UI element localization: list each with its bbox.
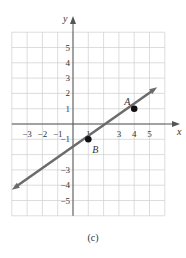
y-tick-label: 1 bbox=[66, 104, 71, 114]
x-tick-label: 5 bbox=[147, 129, 152, 139]
point-a bbox=[131, 105, 138, 112]
point-a-label: A bbox=[123, 96, 131, 107]
x-axis-label: x bbox=[176, 126, 182, 137]
y-tick-label: −3 bbox=[60, 165, 70, 175]
point-b bbox=[85, 136, 92, 143]
y-tick-label: −1 bbox=[60, 134, 70, 144]
y-axis-label: y bbox=[62, 13, 68, 24]
y-tick-label: 3 bbox=[66, 73, 71, 83]
y-axis-arrow-icon bbox=[70, 16, 76, 24]
point-b-label: B bbox=[92, 144, 98, 155]
x-tick-label: −3 bbox=[22, 129, 32, 139]
figure-caption: (c) bbox=[0, 232, 186, 243]
y-tick-label: −5 bbox=[60, 196, 70, 206]
y-tick-label: 2 bbox=[66, 88, 71, 98]
y-tick-label: 5 bbox=[66, 43, 71, 53]
x-tick-label: 4 bbox=[132, 129, 137, 139]
coordinate-plane: xy−3−2−1134554321−1−3−4−5AB bbox=[0, 0, 186, 258]
x-tick-label: 3 bbox=[117, 129, 122, 139]
x-tick-label: −2 bbox=[38, 129, 48, 139]
y-tick-label: −4 bbox=[60, 180, 70, 190]
y-tick-label: 4 bbox=[66, 58, 71, 68]
